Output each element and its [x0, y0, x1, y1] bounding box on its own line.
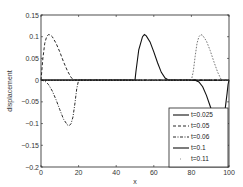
legend-label: t=0.05	[191, 122, 210, 129]
y-tick-label: 0.05	[25, 55, 39, 62]
x-tick-label: 80	[188, 169, 196, 176]
x-tick-label: 20	[75, 169, 83, 176]
y-tick-label: −0.1	[25, 120, 39, 127]
legend-label: t=0.11	[191, 155, 209, 162]
y-tick-label: 0.15	[25, 12, 39, 19]
x-tick-label: 100	[223, 169, 235, 176]
y-tick-label: 0	[35, 77, 39, 84]
x-tick-label: 0	[39, 169, 43, 176]
legend-label: t=0.1	[191, 144, 206, 151]
legend-label: t=0.06	[191, 133, 210, 140]
legend: t=0.025t=0.05t=0.06t=0.1t=0.11	[169, 108, 228, 167]
x-tick-label: 60	[150, 169, 158, 176]
y-tick-label: 0.1	[29, 33, 39, 40]
x-tick-label: 40	[112, 169, 120, 176]
y-tick-label: −0.2	[25, 164, 39, 171]
y-axis-label: displacement	[6, 70, 14, 111]
legend-label: t=0.025	[191, 111, 213, 118]
line-chart: 020406080100−0.2−0.15−0.1−0.0500.050.10.…	[0, 0, 243, 187]
x-axis-label: x	[133, 178, 137, 185]
y-tick-label: −0.15	[21, 142, 39, 149]
y-tick-label: −0.05	[21, 98, 39, 105]
